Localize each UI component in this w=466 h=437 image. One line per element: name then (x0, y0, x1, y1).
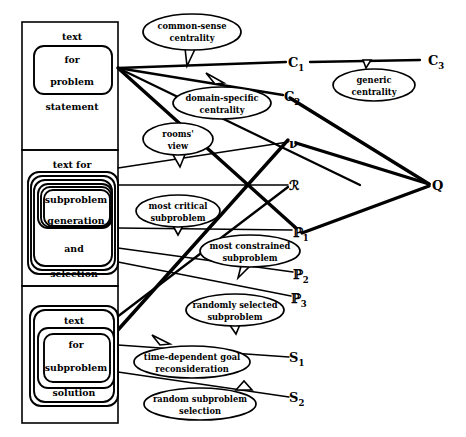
panel1-label-top: text (62, 31, 83, 42)
bubble-text-most-critical-1: most critical (149, 201, 208, 211)
node-label-C2: C2 (284, 89, 300, 107)
panel1-label-bottom: statement (45, 101, 99, 112)
node-label-C1: C1 (288, 55, 304, 73)
node-label-Q: Q (432, 178, 443, 193)
node-label-P2: ℙ2 (293, 267, 309, 285)
bubble-tail-time-dependent (152, 335, 170, 345)
bubble-text-generic-1: generic (357, 75, 392, 85)
panel3-label-top: text (64, 315, 85, 326)
bubble-text-most-constrained-1: most constrained (210, 241, 291, 251)
panel3-label-inner1: for (68, 339, 84, 350)
panel2-label-inner1: subproblem (45, 194, 107, 205)
node-label-S2: S2 (289, 390, 304, 408)
node-label-P1: ℙ1 (293, 225, 309, 243)
panel3-label-bottom: solution (53, 387, 96, 398)
diagram-svg: text for problem statement text for subp… (0, 0, 466, 437)
node-label-P3: ℙ3 (291, 291, 307, 309)
bubble-text-most-critical-2: subproblem (150, 213, 205, 223)
edge-gen-to-P1b (118, 228, 292, 230)
panel2-label-top: text for (53, 159, 93, 170)
panel2-label-mid: and (64, 243, 84, 254)
bubble-text-domain-specific-2: centrality (200, 105, 246, 115)
bubble-text-randomly-selected-1: randomly selected (192, 300, 277, 310)
bubble-tail-generic (363, 60, 371, 68)
bubble-time-dependent-goal[interactable]: time-dependent goal reconsideration (134, 335, 250, 378)
diagram-canvas: text for problem statement text for subp… (0, 0, 466, 437)
bubble-text-domain-specific-1: domain-specific (185, 93, 258, 103)
panel2-label-bottom: selection (50, 268, 98, 279)
bubble-text-randomly-selected-2: subproblem (207, 312, 262, 322)
panel1-label-inner1: for (64, 54, 80, 65)
bubble-ellipse-common-sense[interactable] (143, 14, 241, 50)
bubble-randomly-selected-subproblem[interactable]: randomly selected subproblem (186, 294, 284, 334)
bubble-rooms-view[interactable]: rooms' view (143, 123, 213, 167)
bubble-text-time-dependent-1: time-dependent goal (144, 352, 240, 362)
panel3-label-inner2: subproblem (45, 362, 107, 373)
bubble-text-generic-2: centrality (352, 87, 398, 97)
edge-problem-to-C1 (118, 62, 286, 68)
bubble-text-time-dependent-2: reconsideration (155, 364, 228, 374)
bubble-tail-random-selection (236, 381, 252, 390)
bubble-text-common-sense-1: common-sense (157, 21, 226, 31)
node-label-C3: C3 (428, 53, 444, 71)
node-label-S1: S1 (289, 350, 304, 368)
bubble-generic-centrality[interactable]: generic centrality (333, 60, 415, 101)
edge-P1-to-Q (302, 186, 429, 233)
panel2-label-inner2: generation (47, 215, 104, 226)
bubble-random-subproblem-selection[interactable]: random subproblem selection (144, 381, 256, 420)
node-label-R: ℛ (289, 178, 300, 193)
bubble-text-rooms-view-1: rooms' (162, 129, 193, 139)
bubble-common-sense-centrality[interactable]: common-sense centrality (143, 14, 241, 66)
bubble-text-random-selection-1: random subproblem (153, 394, 247, 404)
bubble-text-random-selection-2: selection (179, 406, 221, 416)
bubble-text-common-sense-2: centrality (170, 33, 216, 43)
panel1-label-inner2: problem (50, 76, 94, 87)
bubble-text-most-constrained-2: subproblem (222, 253, 277, 263)
bubble-text-rooms-view-2: view (167, 141, 189, 151)
node-label-nu: ν (289, 136, 298, 151)
edge-C2-to-Q (290, 98, 429, 184)
